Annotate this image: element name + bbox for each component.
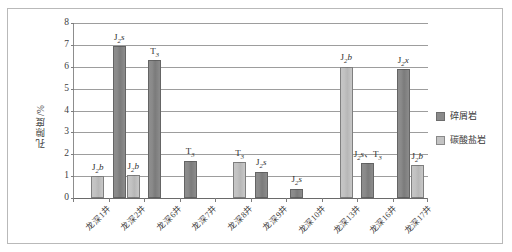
bar-annotation: J2s bbox=[114, 33, 124, 44]
y-tick-label: 4 bbox=[64, 106, 69, 116]
bar-carbonate[interactable]: T3 bbox=[233, 162, 246, 198]
y-tick-label: 3 bbox=[64, 128, 69, 138]
bar-group: J2b bbox=[322, 23, 358, 198]
y-tick-label: 6 bbox=[64, 62, 69, 72]
y-tick-label: 0 bbox=[64, 193, 69, 203]
chart-figure: 孔隙度/% 876543210 J2bJ2sJ2bT3T3T3J2sJ2sJ2b… bbox=[7, 8, 503, 244]
x-label-cell: 龙深8井 bbox=[215, 202, 251, 242]
x-axis-label-9: 龙深17井 bbox=[403, 204, 435, 236]
bar-clastic[interactable]: J2s bbox=[290, 189, 303, 198]
y-tick-label: 1 bbox=[64, 171, 69, 181]
bar-group: J2b bbox=[73, 23, 109, 198]
legend-swatch-icon bbox=[436, 136, 445, 145]
bar-carbonate[interactable]: J2b bbox=[411, 165, 424, 198]
x-label-cell: 龙深7井 bbox=[180, 202, 216, 242]
bar-clastic[interactable]: T3 bbox=[148, 60, 161, 198]
legend-label: 碳酸盐岩 bbox=[450, 136, 486, 145]
bar-carbonate[interactable]: J2b bbox=[91, 176, 104, 198]
legend-item[interactable]: 碎屑岩 bbox=[436, 112, 498, 121]
x-label-cell: 龙深13井 bbox=[322, 202, 358, 242]
bar-carbonate[interactable]: J2b bbox=[127, 175, 140, 198]
bar-annotation: J2b bbox=[92, 163, 103, 174]
x-axis-labels: 龙深1井龙深2井龙深6井龙深7井龙深8井龙深9井龙深10井龙深13井龙深16井龙… bbox=[73, 202, 428, 242]
chart-legend: 碎屑岩碳酸盐岩 bbox=[436, 112, 498, 160]
bar-clastic[interactable]: J2x bbox=[397, 69, 410, 198]
legend-item[interactable]: 碳酸盐岩 bbox=[436, 136, 498, 145]
bar-annotation: J2x bbox=[398, 56, 409, 67]
legend-swatch-icon bbox=[436, 112, 445, 121]
bar-annotation: J2s、T3 bbox=[354, 150, 382, 161]
bar-group: J2s、T3 bbox=[357, 23, 393, 198]
bar-clastic[interactable]: J2s bbox=[113, 46, 126, 198]
bar-annotation: J2b bbox=[128, 162, 139, 173]
bar-annotation: J2s bbox=[292, 175, 302, 186]
plot-area: 876543210 J2bJ2sJ2bT3T3T3J2sJ2sJ2bJ2s、T3… bbox=[73, 23, 428, 198]
bar-group: T3 bbox=[215, 23, 251, 198]
x-label-cell: 龙深16井 bbox=[357, 202, 393, 242]
y-tick-label: 5 bbox=[64, 84, 69, 94]
y-tick-label: 8 bbox=[64, 18, 69, 28]
x-label-cell: 龙深1井 bbox=[73, 202, 109, 242]
bar-clastic[interactable]: J2s bbox=[255, 172, 268, 198]
x-label-cell: 龙深9井 bbox=[251, 202, 287, 242]
bar-annotation: J2b bbox=[341, 53, 352, 64]
x-label-cell: 龙深6井 bbox=[144, 202, 180, 242]
x-label-cell: 龙深10井 bbox=[286, 202, 322, 242]
bar-group: J2s bbox=[286, 23, 322, 198]
bar-annotation: T3 bbox=[186, 147, 195, 158]
y-tick-label: 2 bbox=[64, 150, 69, 160]
bar-annotation: T3 bbox=[235, 149, 244, 160]
x-label-cell: 龙深17井 bbox=[393, 202, 429, 242]
bar-annotation: J2b bbox=[412, 152, 423, 163]
bars-layer: J2bJ2sJ2bT3T3T3J2sJ2sJ2bJ2s、T3J2xJ2b bbox=[73, 23, 428, 198]
legend-label: 碎屑岩 bbox=[450, 112, 477, 121]
bar-clastic[interactable]: J2s、T3 bbox=[361, 163, 374, 198]
bar-group: J2xJ2b bbox=[393, 23, 429, 198]
bar-group: T3 bbox=[144, 23, 180, 198]
bar-group: J2sJ2b bbox=[109, 23, 145, 198]
bar-group: T3 bbox=[180, 23, 216, 198]
bar-annotation: J2s bbox=[256, 158, 266, 169]
y-tick-label: 7 bbox=[64, 40, 69, 50]
y-axis-title: 孔隙度/% bbox=[34, 104, 48, 147]
bar-clastic[interactable]: T3 bbox=[184, 161, 197, 198]
bar-carbonate[interactable]: J2b bbox=[340, 67, 353, 198]
bar-group: J2s bbox=[251, 23, 287, 198]
x-label-cell: 龙深2井 bbox=[109, 202, 145, 242]
bar-annotation: T3 bbox=[150, 47, 159, 58]
